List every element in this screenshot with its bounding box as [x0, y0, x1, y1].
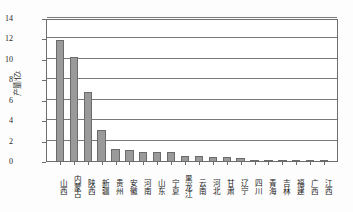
x-tick-mark [255, 162, 256, 165]
x-tick-label: 河北 [206, 164, 220, 210]
bar [56, 40, 64, 162]
x-tick-mark [129, 162, 130, 165]
bar [84, 92, 92, 162]
x-tick-label: 内蒙古 [67, 164, 81, 210]
bar [125, 150, 133, 162]
bar [167, 152, 175, 162]
y-tick-label: 6 [0, 97, 13, 105]
gridline [47, 17, 337, 18]
bar [111, 149, 119, 162]
x-tick-mark [213, 162, 214, 165]
x-tick-mark [241, 162, 242, 165]
x-axis-labels: 山西内蒙古陕西新疆贵州安徽河南山东宁夏黑龙江云南河北甘肃辽宁四川青海吉林福建广西… [46, 164, 338, 212]
x-tick-label: 宁夏 [164, 164, 178, 210]
bar [70, 57, 78, 162]
x-tick-label: 吉林 [275, 164, 289, 210]
x-tick-label: 江西 [317, 164, 331, 210]
x-tick-label: 山东 [150, 164, 164, 210]
x-tick-mark [102, 162, 103, 165]
x-tick-label: 贵州 [109, 164, 123, 210]
x-tick-mark [74, 162, 75, 165]
x-tick-mark [60, 162, 61, 165]
y-tick-label: 8 [0, 76, 13, 84]
x-tick-label: 河南 [136, 164, 150, 210]
y-tick-label: 4 [0, 117, 13, 125]
x-tick-mark [185, 162, 186, 165]
x-tick-mark [268, 162, 269, 165]
bar [97, 130, 105, 162]
x-tick-mark [88, 162, 89, 165]
y-tick-label: 10 [0, 56, 13, 64]
y-tick-label: 14 [0, 15, 13, 23]
x-tick-label: 青海 [262, 164, 276, 210]
x-tick-mark [296, 162, 297, 165]
x-tick-mark [310, 162, 311, 165]
y-tick-label: 12 [0, 35, 13, 43]
x-tick-mark [324, 162, 325, 165]
x-tick-label: 福建 [289, 164, 303, 210]
y-tick-label: 0 [0, 158, 13, 166]
bar [153, 152, 161, 162]
x-tick-label: 广西 [303, 164, 317, 210]
x-tick-label: 辽宁 [234, 164, 248, 210]
y-tick-mark [42, 162, 46, 163]
x-tick-label: 黑龙江 [178, 164, 192, 210]
x-tick-label: 四川 [248, 164, 262, 210]
x-tick-mark [227, 162, 228, 165]
x-tick-mark [157, 162, 158, 165]
chart-figure: 产量/亿t 02468101214 山西内蒙古陕西新疆贵州安徽河南山东宁夏黑龙江… [0, 0, 353, 212]
bar [139, 152, 147, 162]
x-tick-mark [171, 162, 172, 165]
bar-series [46, 19, 338, 162]
y-tick-label: 2 [0, 138, 13, 146]
x-tick-mark [116, 162, 117, 165]
x-tick-mark [282, 162, 283, 165]
x-tick-mark [199, 162, 200, 165]
x-tick-mark [143, 162, 144, 165]
x-tick-label: 云南 [192, 164, 206, 210]
x-tick-label: 安徽 [122, 164, 136, 210]
x-tick-label: 陕西 [81, 164, 95, 210]
x-tick-label: 新疆 [95, 164, 109, 210]
x-tick-label: 甘肃 [220, 164, 234, 210]
x-tick-label: 山西 [53, 164, 67, 210]
